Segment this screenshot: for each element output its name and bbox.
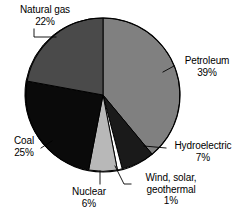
slice-label-petroleum: Petroleum 39% bbox=[176, 55, 238, 78]
slice-label-petroleum-pct: 39% bbox=[176, 67, 238, 79]
slice-label-natural-gas-name: Natural gas bbox=[20, 4, 70, 15]
slice-label-natural-gas: Natural gas 22% bbox=[2, 4, 88, 27]
slice-label-coal-pct: 25% bbox=[2, 147, 46, 159]
slice-label-nuclear: Nuclear 6% bbox=[60, 186, 118, 209]
pie-chart-figure: Natural gas 22% Petroleum 39% Hydroelect… bbox=[0, 0, 240, 218]
slice-label-hydroelectric-pct: 7% bbox=[166, 152, 240, 164]
slice-label-wind-solar-geothermal: Wind, solar, geothermal 1% bbox=[133, 172, 209, 207]
slice-label-coal-name: Coal bbox=[14, 135, 34, 146]
slice-label-hydroelectric-name: Hydroelectric bbox=[174, 140, 231, 151]
slice-label-natural-gas-pct: 22% bbox=[2, 16, 88, 28]
slice-label-nuclear-name: Nuclear bbox=[72, 186, 106, 197]
slice-label-nuclear-pct: 6% bbox=[60, 198, 118, 210]
slice-label-coal: Coal 25% bbox=[2, 135, 46, 158]
slice-label-petroleum-name: Petroleum bbox=[185, 55, 230, 66]
slice-label-wind-line1: Wind, solar, bbox=[145, 172, 196, 183]
slice-label-wind-pct: 1% bbox=[133, 195, 209, 207]
slice-label-wind-line2: geothermal bbox=[133, 184, 209, 196]
slice-label-hydroelectric: Hydroelectric 7% bbox=[166, 140, 240, 163]
pie-slice-natural-gas bbox=[26, 18, 103, 95]
